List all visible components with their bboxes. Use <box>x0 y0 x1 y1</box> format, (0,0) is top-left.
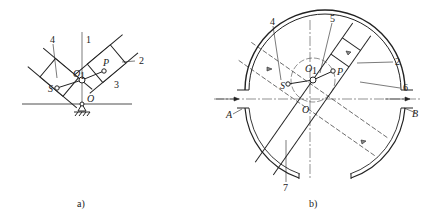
label-s: S <box>48 83 53 94</box>
label-b: B <box>412 108 418 119</box>
mechanism-diagram: 4 1 2 3 O 1 P S O a) <box>0 0 434 219</box>
caption-b: b) <box>309 198 317 210</box>
caption-a: a) <box>77 198 85 210</box>
label-a: A <box>225 109 233 120</box>
label-p: P <box>336 66 343 77</box>
label-2: 2 <box>395 56 400 67</box>
svg-text:1: 1 <box>312 65 317 76</box>
svg-text:1: 1 <box>80 70 85 81</box>
label-o: O <box>302 104 309 115</box>
label-2: 2 <box>139 55 144 66</box>
figure-b <box>214 10 420 182</box>
label-p: P <box>102 57 109 68</box>
label-o: O <box>87 93 94 104</box>
label-1: 1 <box>86 34 91 45</box>
label-4: 4 <box>50 34 55 45</box>
label-3: 3 <box>114 79 119 90</box>
label-4: 4 <box>270 16 275 27</box>
label-s: S <box>280 80 285 91</box>
joint-p <box>102 69 106 73</box>
label-7: 7 <box>283 182 288 193</box>
label-6: 6 <box>403 82 408 93</box>
joint-s <box>55 86 59 90</box>
label-5: 5 <box>330 13 335 24</box>
